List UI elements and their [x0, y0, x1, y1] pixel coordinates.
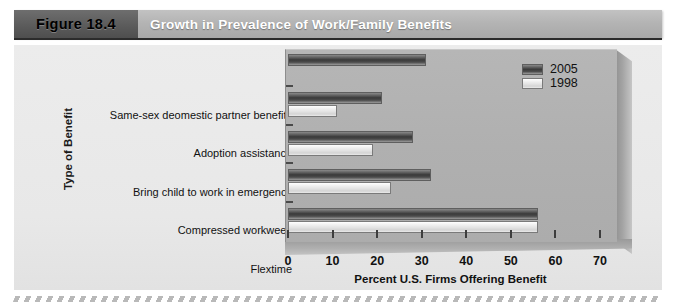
bar-2005-2 [288, 131, 413, 143]
figure-header: Figure 18.4 Growth in Prevalence of Work… [14, 10, 662, 38]
category-label: Flextime [84, 263, 292, 275]
y-axis-tick [286, 162, 293, 164]
plot-3d-right-face [615, 49, 632, 254]
category-label: Bring child to work in emergency [84, 186, 292, 198]
x-axis-tick-label: 20 [370, 254, 384, 268]
legend-label: 1998 [550, 76, 578, 90]
x-axis-tick-label: 40 [459, 254, 473, 268]
page-perforation-strip [13, 296, 663, 302]
figure-body-panel: Type of Benefit Same-sex deomestic partn… [14, 45, 662, 290]
figure-title: Growth in Prevalence of Work/Family Bene… [150, 10, 452, 38]
x-axis-title: Percent U.S. Firms Offering Benefit [285, 273, 616, 285]
x-axis-tick-labels: 010203040506070 [285, 254, 645, 272]
bar-1998-2 [288, 144, 373, 156]
x-axis-ticks [285, 230, 632, 240]
bar-1998-3 [288, 182, 391, 194]
y-axis-tick [286, 201, 293, 203]
figure-number-box: Figure 18.4 [14, 10, 138, 38]
bar-2005-3 [288, 169, 431, 181]
x-axis-tick-label: 70 [593, 254, 607, 268]
x-axis-tick [421, 230, 423, 238]
x-axis-tick [599, 230, 601, 238]
bar-2005-1 [288, 92, 382, 104]
bar-2005-4 [288, 208, 538, 220]
legend-item-2005: 2005 [522, 62, 578, 76]
y-axis-tick [286, 124, 293, 126]
x-axis-tick-label: 60 [548, 254, 562, 268]
figure-number-label: Figure 18.4 [36, 16, 116, 32]
y-axis-title: Type of Benefit [62, 89, 74, 209]
y-axis-tick [286, 85, 293, 87]
category-label: Same-sex deomestic partner benefits [84, 109, 292, 121]
plot-area: 20051998 [285, 49, 632, 254]
x-axis-tick-label: 50 [504, 254, 518, 268]
header-divider-rule [14, 38, 662, 40]
legend-swatch-1998 [522, 78, 543, 89]
x-axis-tick [332, 230, 334, 238]
legend-swatch-2005 [522, 64, 543, 75]
x-axis-tick [287, 230, 289, 238]
bar-1998-1 [288, 105, 337, 117]
category-label: Adoption assistance [84, 147, 292, 159]
plot-face: 20051998 [285, 49, 617, 242]
x-axis-tick [554, 230, 556, 238]
legend-label: 2005 [550, 62, 578, 76]
x-axis-tick [376, 230, 378, 238]
category-label: Compressed workweek [84, 224, 292, 236]
chart-legend: 20051998 [522, 62, 578, 90]
category-labels-column: Same-sex deomestic partner benefitsAdopt… [84, 100, 292, 280]
x-axis-tick-label: 30 [415, 254, 429, 268]
legend-item-1998: 1998 [522, 76, 578, 90]
x-axis-tick-label: 0 [285, 254, 292, 268]
x-axis-tick [510, 230, 512, 238]
x-axis-tick [465, 230, 467, 238]
bar-2005-0 [288, 54, 426, 66]
x-axis-tick-label: 10 [326, 254, 340, 268]
